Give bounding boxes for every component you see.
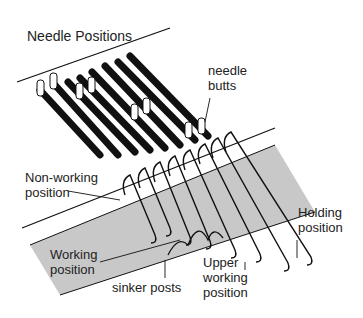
diagram-title: Needle Positions bbox=[27, 29, 132, 44]
label-sinker-posts: sinker posts bbox=[112, 280, 181, 295]
label-needle-butts: needle butts bbox=[208, 63, 247, 93]
needle-positions-diagram: Needle Positions needle butts Non-workin… bbox=[0, 0, 363, 318]
label-working-position: Working position bbox=[50, 247, 97, 277]
label-upper-working-position: Upper working position bbox=[203, 255, 248, 300]
needle-slots bbox=[40, 56, 208, 155]
label-non-working-position: Non-working position bbox=[25, 170, 98, 200]
label-holding-position: Holding position bbox=[298, 205, 343, 235]
